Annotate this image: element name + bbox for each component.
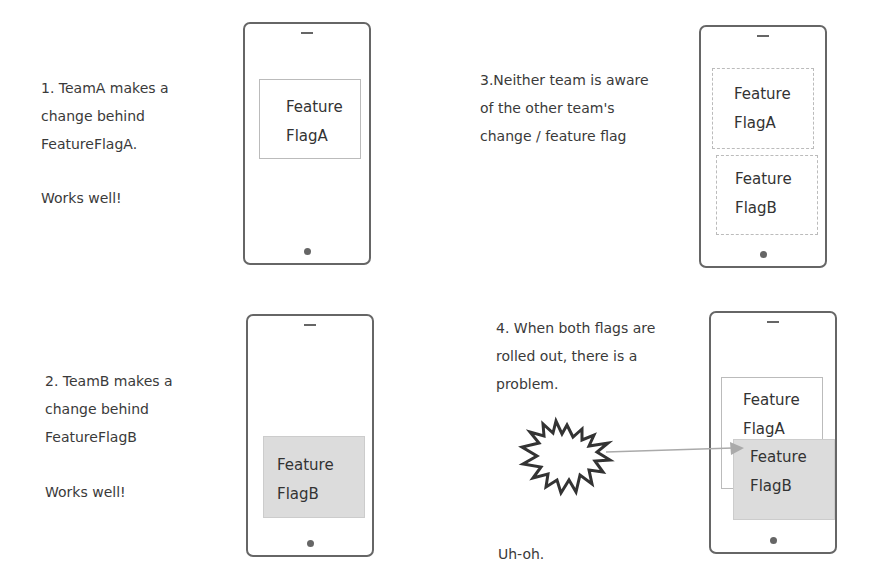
arrow-icon xyxy=(606,442,744,455)
conflict-overlay xyxy=(0,0,872,583)
explosion-icon xyxy=(522,421,610,493)
